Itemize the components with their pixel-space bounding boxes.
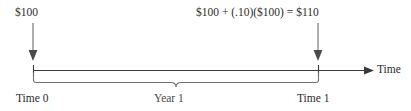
- present-value-label: $100: [15, 7, 38, 19]
- time-1-label: Time 1: [297, 93, 330, 105]
- time-0-label: Time 0: [16, 93, 49, 105]
- down-arrow-time-0: [29, 23, 38, 61]
- year-1-brace: [34, 73, 319, 87]
- year-1-label: Year 1: [154, 93, 184, 105]
- timeline-diagram: $100 $100 + (.10)($100) = $110 Time Time…: [0, 0, 411, 111]
- future-value-formula-label: $100 + (.10)($100) = $110: [196, 7, 319, 19]
- time-axis-label: Time: [377, 64, 401, 76]
- down-arrow-time-1: [314, 23, 323, 61]
- time-axis-line: [33, 67, 374, 75]
